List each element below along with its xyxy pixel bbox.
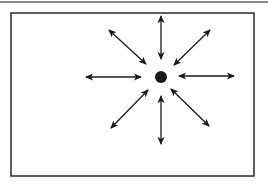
center-dot bbox=[155, 71, 167, 83]
double-arrow-down-right-icon bbox=[171, 89, 209, 126]
double-arrow-down-left-icon bbox=[111, 90, 148, 128]
double-arrow-up-left-icon bbox=[109, 30, 146, 64]
radial-arrows-diagram bbox=[0, 0, 268, 186]
diagram-frame bbox=[11, 13, 254, 176]
double-arrow-up-right-icon bbox=[174, 30, 210, 65]
